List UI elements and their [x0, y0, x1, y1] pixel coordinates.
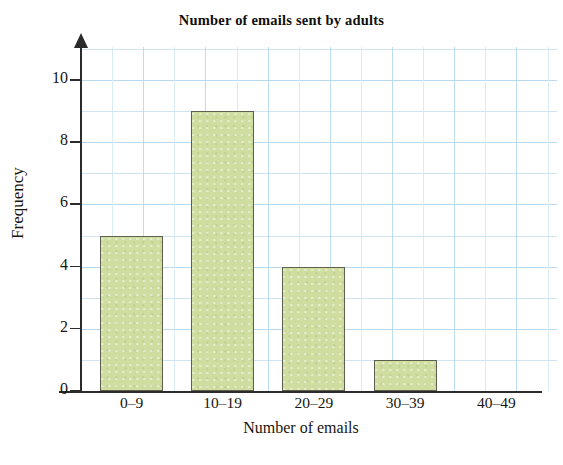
- x-tick-label: 30–39: [360, 394, 450, 412]
- chart-title: Number of emails sent by adults: [0, 12, 563, 29]
- y-tick-label: 4: [22, 256, 68, 274]
- x-tick-label: 10–19: [178, 394, 268, 412]
- y-tick-label: 8: [22, 131, 68, 149]
- y-tick-mark: [70, 141, 82, 143]
- y-tick-mark: [70, 266, 82, 268]
- histogram-chart: Number of emails sent by adults 0246810 …: [0, 0, 563, 465]
- y-tick-label: 10: [22, 69, 68, 87]
- y-tick-mark: [70, 390, 82, 392]
- y-axis-arrow-icon: [74, 33, 88, 48]
- x-axis-title: Number of emails: [81, 419, 521, 437]
- x-tick-label: 20–29: [269, 394, 359, 412]
- y-tick-mark: [70, 328, 82, 330]
- bar-0-9: [100, 236, 163, 392]
- y-axis-title: Frequency: [8, 123, 28, 283]
- y-tick-mark: [70, 79, 82, 81]
- x-axis-line: [59, 391, 542, 393]
- y-axis-line: [80, 47, 82, 392]
- plot-area: [81, 47, 557, 391]
- bar-20-29: [282, 267, 345, 391]
- y-tick-label: 0: [22, 380, 68, 398]
- bars-group: [81, 47, 557, 391]
- x-tick-label: 40–49: [451, 394, 541, 412]
- y-tick-label: 6: [22, 193, 68, 211]
- bar-10-19: [191, 111, 254, 391]
- x-tick-label: 0–9: [87, 394, 177, 412]
- y-tick-label: 2: [22, 318, 68, 336]
- y-tick-mark: [70, 203, 82, 205]
- bar-30-39: [374, 360, 437, 391]
